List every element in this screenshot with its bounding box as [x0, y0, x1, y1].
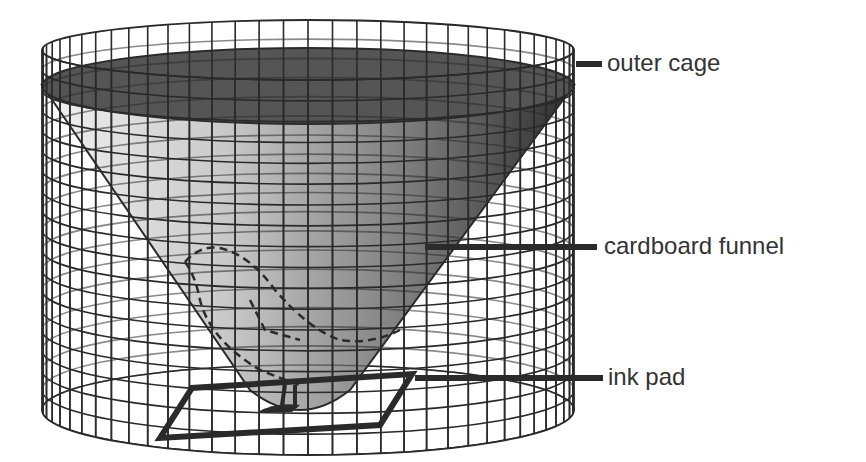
label-cardboard-funnel: cardboard funnel [604, 234, 784, 258]
label-ink-pad: ink pad [608, 365, 685, 389]
funnel-cage-diagram [0, 0, 866, 462]
label-outer-cage: outer cage [607, 51, 720, 75]
